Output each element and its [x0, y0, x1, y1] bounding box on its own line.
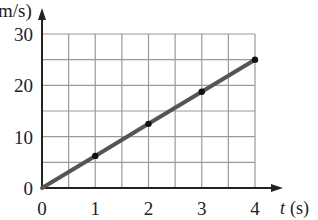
y-axis-label: m/s) — [0, 0, 32, 22]
x-tick-label: 0 — [37, 198, 47, 219]
grid — [42, 34, 255, 188]
data-point-marker — [145, 121, 151, 127]
y-axis-arrow-icon — [38, 8, 46, 20]
data-point-marker — [252, 56, 258, 62]
velocity-time-chart: 012340102030 m/s) t (s) — [0, 0, 318, 220]
y-tick-label: 10 — [14, 127, 33, 148]
x-tick-label: 1 — [91, 198, 101, 219]
x-tick-label: 2 — [144, 198, 154, 219]
tick-labels: 012340102030 — [14, 24, 260, 219]
y-tick-label: 30 — [14, 24, 33, 45]
x-tick-label: 4 — [250, 198, 260, 219]
x-axis-var: t — [280, 198, 286, 218]
y-tick-label: 0 — [24, 178, 34, 199]
data-point-marker — [92, 153, 98, 159]
x-axis-arrow-icon — [271, 184, 283, 192]
x-tick-label: 3 — [197, 198, 207, 219]
x-axis-unit: (s) — [290, 198, 309, 219]
data-point-marker — [199, 89, 205, 95]
y-tick-label: 20 — [14, 75, 33, 96]
data-series — [42, 56, 258, 188]
axes — [38, 8, 283, 192]
